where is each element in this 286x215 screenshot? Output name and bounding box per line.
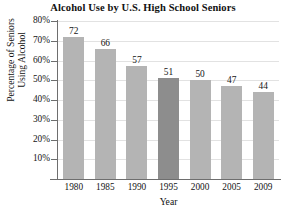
y-axis-tick-label: 20% — [4, 134, 50, 144]
bar[interactable] — [95, 49, 116, 179]
bar-group[interactable]: 66 — [90, 21, 122, 179]
bar-group[interactable]: 47 — [216, 21, 248, 179]
y-axis-tick-label: 30% — [4, 114, 50, 124]
bar-value-label: 44 — [259, 81, 268, 91]
bar[interactable] — [126, 66, 147, 179]
bar-value-label: 57 — [132, 55, 141, 65]
bar-value-label: 66 — [101, 38, 110, 48]
bar[interactable] — [221, 86, 242, 179]
plot-area: 72665751504744 — [58, 21, 279, 179]
y-axis-tick-label: 80% — [4, 15, 50, 25]
bar-group[interactable]: 44 — [247, 21, 279, 179]
y-axis-tick — [51, 120, 58, 121]
bar[interactable] — [63, 37, 84, 179]
y-axis-tick-label: 40% — [4, 94, 50, 104]
x-axis-tick-label: 1985 — [90, 182, 122, 192]
y-axis-tick-label: 50% — [4, 74, 50, 84]
x-axis-title: Year — [58, 196, 279, 207]
bar-value-label: 72 — [69, 26, 78, 36]
x-axis-tick-label: 1990 — [121, 182, 153, 192]
bar[interactable] — [190, 80, 211, 179]
y-axis-tick-label: 70% — [4, 35, 50, 45]
y-axis-tick — [51, 21, 58, 22]
x-axis-line — [50, 179, 281, 180]
y-axis-tick-labels: 80%70%60%50%40%30%20%10% — [0, 0, 50, 215]
y-axis-tick — [51, 61, 58, 62]
x-axis-tick-label: 1995 — [153, 182, 185, 192]
y-axis-tick — [51, 80, 58, 81]
x-axis-tick-label: 2009 — [247, 182, 279, 192]
x-axis-tick-label: 2000 — [184, 182, 216, 192]
bar-value-label: 47 — [227, 75, 236, 85]
x-axis-tick-label: 2005 — [216, 182, 248, 192]
bar-group[interactable]: 57 — [121, 21, 153, 179]
y-axis-tick-label: 60% — [4, 55, 50, 65]
bar-group[interactable]: 50 — [184, 21, 216, 179]
bar-value-label: 50 — [195, 69, 204, 79]
x-axis-tick-label: 1980 — [58, 182, 90, 192]
chart-figure: Alcohol Use by U.S. High School Seniors … — [0, 0, 286, 215]
y-axis-tick — [51, 41, 58, 42]
bar-value-label: 51 — [164, 67, 173, 77]
bar[interactable] — [158, 78, 179, 179]
bar[interactable] — [253, 92, 274, 179]
y-axis-tick — [51, 159, 58, 160]
bar-group[interactable]: 51 — [153, 21, 185, 179]
bar-group[interactable]: 72 — [58, 21, 90, 179]
y-axis-tick — [51, 100, 58, 101]
y-axis-tick — [51, 140, 58, 141]
y-axis-tick-label: 10% — [4, 153, 50, 163]
